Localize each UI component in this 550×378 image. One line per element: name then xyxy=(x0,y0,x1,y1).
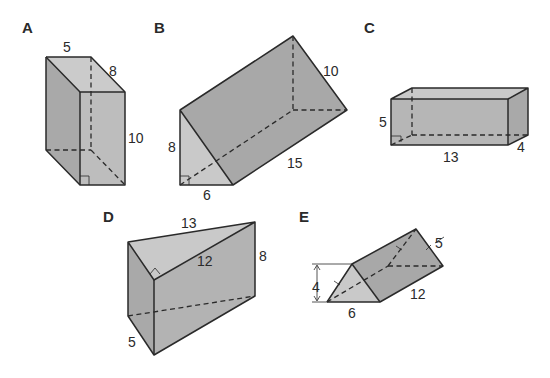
dim-d-height: 8 xyxy=(259,248,267,264)
prism-d: D 13 12 8 5 xyxy=(103,208,267,355)
dim-e-height: 4 xyxy=(312,279,320,295)
dim-c-depth: 4 xyxy=(517,139,525,155)
shape-label-a: A xyxy=(22,19,33,36)
dim-a-depth: 8 xyxy=(109,63,117,79)
dim-c-height: 5 xyxy=(379,114,387,130)
prism-a-front-face xyxy=(80,92,125,185)
shape-label-b: B xyxy=(154,19,165,36)
prism-a: A 5 8 10 xyxy=(22,19,144,185)
dim-d-leg: 12 xyxy=(197,253,213,269)
shape-label-c: C xyxy=(364,19,375,36)
dim-d-short-leg: 5 xyxy=(128,334,136,350)
shape-label-d: D xyxy=(103,208,114,225)
prism-b: B 8 6 15 10 xyxy=(154,19,347,203)
dim-b-length: 15 xyxy=(287,155,303,171)
dim-b-hypotenuse: 10 xyxy=(323,63,339,79)
dim-d-hypotenuse: 13 xyxy=(181,215,197,231)
dim-e-slant: 5 xyxy=(435,235,443,251)
dim-b-base: 6 xyxy=(203,187,211,203)
dim-a-width: 5 xyxy=(63,39,71,55)
dim-a-height: 10 xyxy=(128,130,144,146)
dim-e-base: 6 xyxy=(348,305,356,321)
dim-e-length: 12 xyxy=(410,286,426,302)
dim-b-height: 8 xyxy=(168,139,176,155)
shape-label-e: E xyxy=(299,208,309,225)
prisms-figure: A 5 8 10 B 8 6 15 10 xyxy=(0,0,550,378)
prism-e: E 4 6 12 5 xyxy=(299,208,444,321)
dim-c-length: 13 xyxy=(443,149,459,165)
prism-c-front-face xyxy=(391,99,508,145)
prism-c: C 5 13 4 xyxy=(364,19,528,165)
